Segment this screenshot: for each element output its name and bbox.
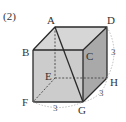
dimension-label-DH: 3 bbox=[111, 47, 116, 57]
vertex-label-B: B bbox=[22, 46, 29, 58]
cube-diagram: (2) A D B C E H F G 3 3 3 bbox=[0, 0, 126, 122]
vertex-label-E: E bbox=[45, 70, 52, 82]
dimension-label-GH: 3 bbox=[99, 88, 104, 98]
vertex-label-H: H bbox=[110, 76, 118, 88]
dimension-label-FG: 3 bbox=[53, 103, 58, 113]
vertex-label-F: F bbox=[22, 96, 28, 108]
dimension-arc-FG bbox=[33, 102, 83, 108]
vertex-label-G: G bbox=[78, 104, 86, 116]
vertex-label-D: D bbox=[107, 14, 115, 26]
vertex-label-C: C bbox=[86, 50, 93, 62]
vertex-label-A: A bbox=[47, 14, 55, 26]
problem-number: (2) bbox=[3, 10, 16, 23]
